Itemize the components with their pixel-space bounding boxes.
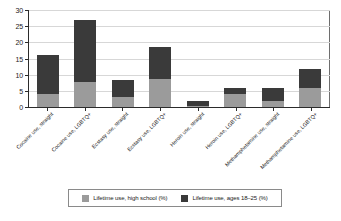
- bar-slot: [67, 10, 105, 107]
- bar-segment-high-school[interactable]: [37, 94, 59, 107]
- stacked-bar[interactable]: [149, 47, 171, 107]
- x-axis-labels: Cocaine use, straightCocaine use, LGBTQ+…: [28, 111, 330, 183]
- x-tick-label: Cocaine use, straight: [15, 111, 54, 150]
- x-tick-label: Ecstasy use, straight: [91, 111, 130, 150]
- bar-segment-ages-18-25[interactable]: [74, 20, 96, 82]
- legend-item-ages-18-25[interactable]: Lifetime use, ages 18–25 (%): [181, 195, 267, 202]
- y-tick-label: 30: [16, 7, 23, 14]
- stacked-bar[interactable]: [187, 101, 209, 107]
- bar-slot: [29, 10, 67, 107]
- y-tick-label: 0: [19, 104, 23, 111]
- legend-swatch-icon-ages-18-25: [181, 195, 188, 202]
- stacked-bar-chart: 051015202530 Cocaine use, straightCocain…: [0, 0, 341, 221]
- x-tick-label: Heroin use, LGBTQ+: [204, 111, 243, 150]
- bar-segment-high-school[interactable]: [299, 88, 321, 107]
- x-tick-label: Heroin use, straight: [169, 111, 206, 148]
- x-tick-label: Ecstasy use, LGBTQ+: [126, 111, 167, 152]
- bar-segment-high-school[interactable]: [112, 97, 134, 107]
- bar-slot: [254, 10, 292, 107]
- bar-slot: [104, 10, 142, 107]
- bar-segment-ages-18-25[interactable]: [149, 47, 171, 79]
- bar-segment-high-school[interactable]: [74, 82, 96, 107]
- y-tick-label: 5: [19, 87, 23, 94]
- y-tick-label: 10: [16, 71, 23, 78]
- bar-segment-high-school[interactable]: [224, 94, 246, 107]
- bar-segment-ages-18-25[interactable]: [112, 80, 134, 97]
- legend-label-high-school: Lifetime use, high school (%): [93, 195, 167, 202]
- bar-slot: [179, 10, 217, 107]
- bar-segment-high-school[interactable]: [149, 79, 171, 107]
- stacked-bar[interactable]: [262, 88, 284, 107]
- bar-segment-high-school[interactable]: [262, 101, 284, 107]
- bar-segment-ages-18-25[interactable]: [37, 55, 59, 94]
- bar-segment-high-school[interactable]: [187, 106, 209, 107]
- bar-slot: [217, 10, 255, 107]
- stacked-bar[interactable]: [299, 69, 321, 107]
- legend-swatch-icon-high-school: [82, 195, 89, 202]
- stacked-bar[interactable]: [112, 80, 134, 107]
- bar-slot: [292, 10, 330, 107]
- bar-segment-ages-18-25[interactable]: [262, 88, 284, 101]
- stacked-bar[interactable]: [74, 20, 96, 107]
- bar-slot: [142, 10, 180, 107]
- bar-segment-ages-18-25[interactable]: [299, 69, 321, 88]
- y-tick-label: 20: [16, 39, 23, 46]
- bars-layer: [29, 10, 329, 107]
- legend-item-high-school[interactable]: Lifetime use, high school (%): [82, 195, 167, 202]
- stacked-bar[interactable]: [224, 88, 246, 107]
- stacked-bar[interactable]: [37, 55, 59, 107]
- y-tick-label: 15: [16, 55, 23, 62]
- x-tick-label: Cocaine use, LGBTQ+: [50, 111, 92, 153]
- plot-area: 051015202530: [28, 10, 330, 108]
- y-tick-label: 25: [16, 23, 23, 30]
- legend-label-ages-18-25: Lifetime use, ages 18–25 (%): [192, 195, 267, 202]
- chart-legend: Lifetime use, high school (%) Lifetime u…: [68, 189, 282, 207]
